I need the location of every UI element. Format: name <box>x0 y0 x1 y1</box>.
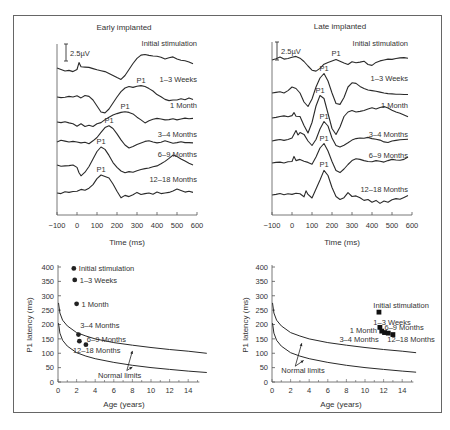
y-tick-label: 150 <box>41 335 54 344</box>
x-tick-label: 500 <box>171 221 184 230</box>
trace-label: Initial stimulation <box>353 39 408 48</box>
x-tick-label: 200 <box>326 221 339 230</box>
scale-bar-label: 2.5µV <box>70 49 90 58</box>
data-point-circle <box>72 278 77 283</box>
p1-peak-label: P1 <box>331 49 340 58</box>
x-tick-label: 10 <box>361 386 369 395</box>
p1-peak-label: P1 <box>96 137 105 146</box>
trace-label: 6–9 Months <box>158 150 197 159</box>
x-tick-label: 600 <box>406 221 419 230</box>
x-tick-label: 10 <box>147 386 155 395</box>
x-tick-label: 2 <box>75 386 79 395</box>
p1-peak-label: P1 <box>319 134 328 143</box>
y-tick-label: 300 <box>41 292 54 301</box>
x-tick-label: 400 <box>151 221 164 230</box>
x-tick-label: −100 <box>49 221 66 230</box>
y-tick-label: 300 <box>255 292 268 301</box>
point-label: Initial stimulation <box>79 264 134 273</box>
early-waveform-x-label: Time (ms) <box>109 238 145 247</box>
x-tick-label: 8 <box>344 386 348 395</box>
y-tick-label: 250 <box>41 306 54 315</box>
data-point-circle <box>77 339 82 344</box>
normal-limits-label: Normal limits <box>98 371 142 380</box>
p1-peak-label: P1 <box>319 112 328 121</box>
late-latency-y-label: P1 latency (ms) <box>241 297 250 353</box>
point-label: Initial stimulation <box>373 301 428 310</box>
late-waveform-x-label: Time (ms) <box>324 238 360 247</box>
point-label: 1 Month <box>350 326 377 335</box>
data-point-circle <box>71 266 76 271</box>
trace-label: 1–3 Weeks <box>371 74 409 83</box>
y-tick-label: 200 <box>41 320 54 329</box>
y-tick-label: 100 <box>41 349 54 358</box>
x-tick-label: 14 <box>184 386 192 395</box>
x-tick-label: 14 <box>398 386 406 395</box>
scale-bar-label: 2.5µV <box>281 47 301 56</box>
trace-label: 1–3 Weeks <box>160 75 198 84</box>
trace-label: 1 Month <box>170 101 197 110</box>
x-tick-label: 0 <box>290 221 294 230</box>
y-tick-label: 350 <box>41 277 54 286</box>
early-waveform-title: Early implanted <box>96 23 151 32</box>
p1-peak-label: P1 <box>96 165 105 174</box>
y-tick-label: 400 <box>255 263 268 272</box>
x-tick-label: 0 <box>75 221 79 230</box>
point-label: 1–3 Weeks <box>80 276 118 285</box>
x-tick-label: 12 <box>165 386 173 395</box>
x-tick-label: 6 <box>112 386 116 395</box>
figure: Early implanted Initial stimulation1–3 W… <box>0 0 450 430</box>
p1-peak-label: P1 <box>315 86 324 95</box>
y-tick-label: 100 <box>255 349 268 358</box>
x-tick-label: 500 <box>386 221 399 230</box>
x-tick-label: 0 <box>56 386 60 395</box>
y-tick-label: 400 <box>41 263 54 272</box>
p1-peak-label: P1 <box>104 116 113 125</box>
late-waveform-title: Late implanted <box>314 22 366 31</box>
x-tick-label: 100 <box>91 221 104 230</box>
p1-peak-label: P1 <box>120 102 129 111</box>
y-tick-label: 250 <box>255 306 268 315</box>
early-latency-y-label: P1 latency (ms) <box>25 297 34 353</box>
data-point-square <box>377 310 382 315</box>
data-point-circle <box>74 301 79 306</box>
y-tick-label: 150 <box>255 335 268 344</box>
point-label: 3–4 Months <box>339 335 378 344</box>
y-tick-label: 50 <box>46 363 54 372</box>
trace-label: 12–18 Months <box>149 175 197 184</box>
x-tick-label: 200 <box>111 221 124 230</box>
y-tick-label: 0 <box>50 378 54 387</box>
x-tick-label: −100 <box>264 221 281 230</box>
trace-label: 1 Month <box>381 101 408 110</box>
x-tick-label: 400 <box>366 221 379 230</box>
x-tick-label: 4 <box>307 386 311 395</box>
trace-label: Initial stimulation <box>142 39 197 48</box>
point-label: 12–18 Months <box>73 346 121 355</box>
trace-label: 12–18 Months <box>360 185 408 194</box>
data-point-circle <box>76 332 81 337</box>
x-tick-label: 100 <box>306 221 319 230</box>
x-tick-label: 600 <box>191 221 204 230</box>
p1-peak-label: P1 <box>319 160 328 169</box>
trace-label: 3–4 Months <box>369 130 408 139</box>
trace-label: 3–4 Months <box>158 130 197 139</box>
x-tick-label: 0 <box>270 386 274 395</box>
x-tick-label: 300 <box>346 221 359 230</box>
x-tick-label: 12 <box>379 386 387 395</box>
p1-peak-label: P1 <box>319 64 328 73</box>
trace-label: 6–9 Months <box>369 151 408 160</box>
point-label: 3–4 Months <box>80 321 119 330</box>
x-tick-label: 6 <box>326 386 330 395</box>
point-label: 6–9 Months <box>87 335 126 344</box>
point-label: 6–9 Months <box>385 323 424 332</box>
early-latency-x-label: Age (years) <box>103 400 145 409</box>
x-tick-label: 4 <box>93 386 97 395</box>
x-tick-label: 2 <box>289 386 293 395</box>
y-tick-label: 350 <box>255 277 268 286</box>
point-label: 1 Month <box>82 300 109 309</box>
y-tick-label: 50 <box>260 363 268 372</box>
normal-limits-label: Normal limits <box>281 366 325 375</box>
y-tick-label: 0 <box>264 378 268 387</box>
x-tick-label: 8 <box>130 386 134 395</box>
p1-peak-label: P1 <box>136 76 145 85</box>
point-label: 12–18 Months <box>387 335 435 344</box>
